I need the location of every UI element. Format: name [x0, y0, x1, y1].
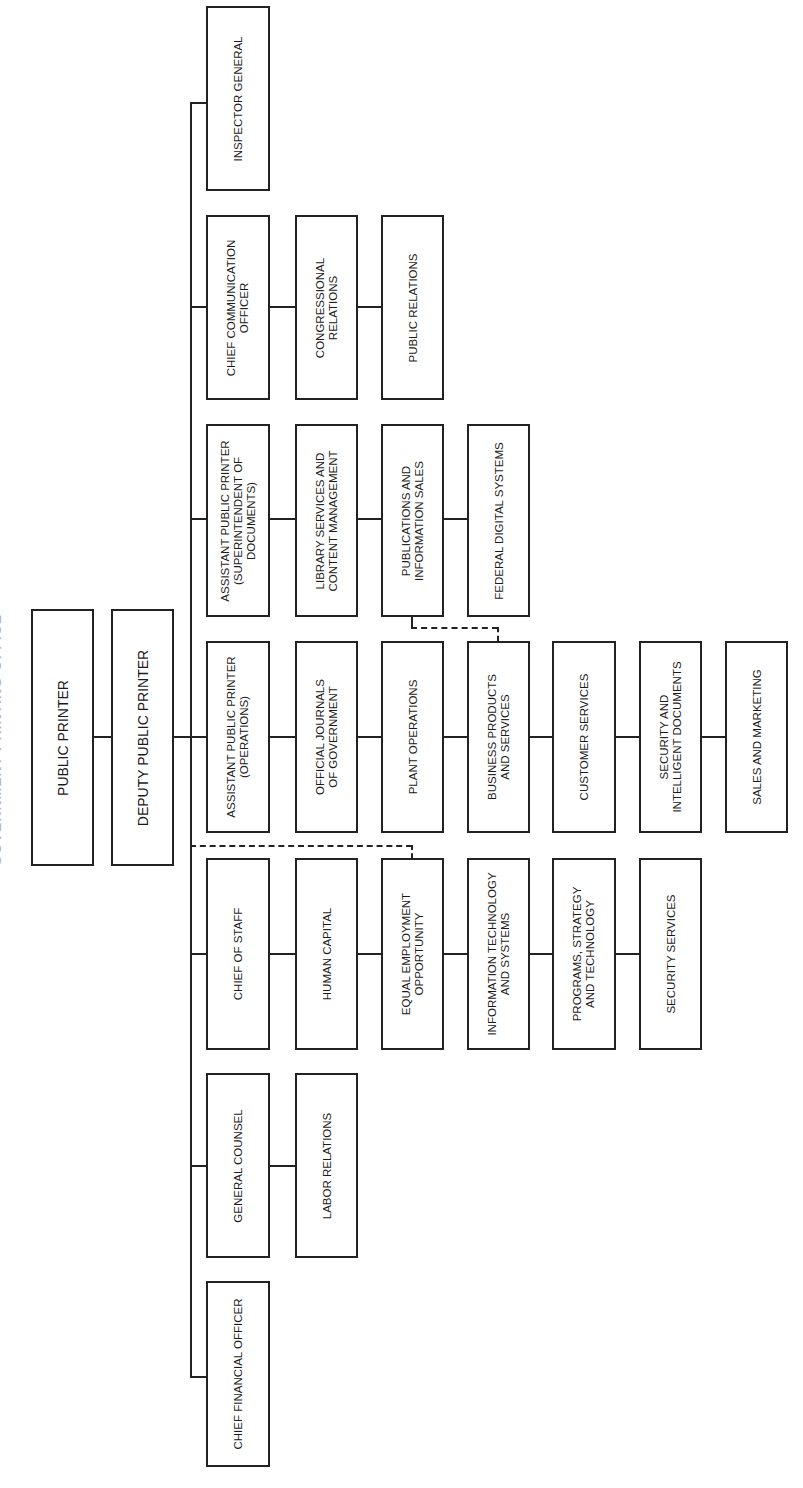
- box-public-printer: PUBLIC PRINTER: [31, 609, 94, 866]
- box-deputy-public-printer: DEPUTY PUBLIC PRINTER: [111, 609, 174, 866]
- box-business-products-services: BUSINESS PRODUCTS AND SERVICES: [467, 641, 530, 833]
- box-chief-of-staff: CHIEF OF STAFF: [206, 858, 270, 1050]
- box-operations: ASSISTANT PUBLIC PRINTER (OPERATIONS): [206, 641, 270, 833]
- connector: [190, 1376, 206, 1378]
- box-sales-marketing: SALES AND MARKETING: [725, 641, 788, 833]
- box-customer-services: CUSTOMER SERVICES: [552, 641, 616, 833]
- connector: [358, 306, 381, 308]
- box-inspector-general: INSPECTOR GENERAL: [206, 6, 270, 191]
- box-equal-employment-opportunity: EQUAL EMPLOYMENT OPPORTUNITY: [381, 858, 444, 1050]
- chart-title: GOVERNMENT PRINTING OFFICE: [0, 520, 6, 960]
- box-federal-digital-systems: FEDERAL DIGITAL SYSTEMS: [467, 424, 530, 617]
- connector: [94, 736, 111, 738]
- dotted-link: [411, 627, 498, 629]
- connector: [190, 102, 206, 104]
- box-chief-communication-officer: CHIEF COMMUNICATION OFFICER: [206, 215, 270, 400]
- box-plant-operations: PLANT OPERATIONS: [381, 641, 444, 833]
- dotted-link: [497, 627, 499, 641]
- dotted-link: [190, 845, 412, 847]
- box-chief-financial-officer: CHIEF FINANCIAL OFFICER: [206, 1281, 270, 1467]
- dotted-link: [411, 845, 413, 858]
- box-superintendent-of-documents: ASSISTANT PUBLIC PRINTER (SUPERINTENDENT…: [206, 424, 270, 617]
- box-official-journals: OFFICIAL JOURNALS OF GOVERNMENT: [295, 641, 358, 833]
- box-security-intelligent-documents: SECURITY AND INTELLIGENT DOCUMENTS: [639, 641, 702, 833]
- box-publications-information-sales: PUBLICATIONS AND INFORMATION SALES: [381, 424, 444, 617]
- trunk-line: [190, 102, 192, 1378]
- box-congressional-relations: CONGRESSIONAL RELATIONS: [295, 215, 358, 400]
- box-public-relations: PUBLIC RELATIONS: [381, 215, 444, 400]
- box-general-counsel: GENERAL COUNSEL: [206, 1073, 270, 1258]
- box-security-services: SECURITY SERVICES: [639, 858, 702, 1050]
- box-information-technology-systems: INFORMATION TECHNOLOGY AND SYSTEMS: [467, 858, 530, 1050]
- box-library-services: LIBRARY SERVICES AND CONTENT MANAGEMENT: [295, 424, 358, 617]
- box-programs-strategy-technology: PROGRAMS, STRATEGY AND TECHNOLOGY: [552, 858, 616, 1050]
- box-human-capital: HUMAN CAPITAL: [295, 858, 358, 1050]
- box-labor-relations: LABOR RELATIONS: [295, 1073, 358, 1258]
